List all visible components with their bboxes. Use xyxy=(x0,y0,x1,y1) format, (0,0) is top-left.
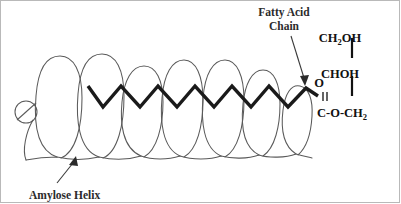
glycerol-ester-group: O CH2OH CHOH C-O-CH2 xyxy=(314,31,367,122)
fatty-acid-label-line1: Fatty Acid xyxy=(258,6,310,19)
amylose-pointer-line xyxy=(57,163,73,183)
helix-terminal-circle xyxy=(15,101,37,123)
fatty-acid-annotation: Fatty Acid Chain xyxy=(258,6,310,86)
carbonyl-double-bond xyxy=(323,92,327,101)
helix-loop-4 xyxy=(161,60,203,157)
helix-loop-1 xyxy=(35,56,82,158)
ester-linkage-label: C-O-CH2 xyxy=(317,106,367,122)
helix-loop-6 xyxy=(242,70,280,156)
amylose-helix-label: Amylose Helix xyxy=(29,189,100,202)
helix-baseline xyxy=(26,154,312,160)
amylose-fatty-acid-diagram: O CH2OH CHOH C-O-CH2 Fatty Acid Chain Am… xyxy=(0,0,401,204)
amylose-annotation: Amylose Helix xyxy=(29,156,100,202)
helix-left-tail xyxy=(24,120,33,160)
helix-loop-3 xyxy=(121,66,163,157)
amylose-helix-coils xyxy=(24,54,312,160)
ch2oh-label: CH2OH xyxy=(319,31,362,47)
amylose-arrowhead xyxy=(69,156,78,166)
choh-label: CHOH xyxy=(321,67,359,81)
helix-loop-5 xyxy=(202,60,244,157)
diagram-canvas: O CH2OH CHOH C-O-CH2 Fatty Acid Chain Am… xyxy=(0,0,401,204)
fatty-acid-arrowhead xyxy=(300,75,309,86)
fatty-acid-label-line2: Chain xyxy=(269,20,300,32)
fatty-acid-pointer-line xyxy=(291,36,304,78)
